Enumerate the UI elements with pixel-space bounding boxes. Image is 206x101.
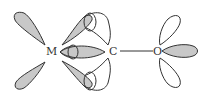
metal-lobe-lower-left [15,62,45,89]
oxygen-lobe-lower [159,58,180,87]
atom-label-oxygen: O [153,45,162,58]
oxygen-lobe-right [162,45,198,58]
orbital-diagram: M C O [0,0,206,101]
metal-lobe-upper-left [14,12,45,45]
atom-label-carbon: C [109,45,117,58]
atom-label-metal: M [46,45,57,58]
oxygen-lobe-upper [159,16,180,45]
